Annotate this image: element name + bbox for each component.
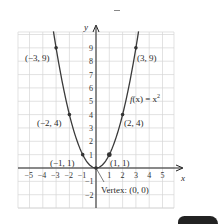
y-tick-label: 8 — [89, 57, 93, 66]
x-tick-label: 1 — [107, 171, 111, 180]
x-tick-label: 3 — [134, 171, 138, 180]
y-tick-label: −1 — [85, 177, 94, 186]
x-tick-label: −5 — [25, 171, 34, 180]
y-axis-label: y — [83, 22, 88, 32]
x-tick-label: 4 — [147, 171, 151, 180]
parabola-chart: x y −5−4−3−2−112345 987654321−1−2 (−3, 9… — [0, 0, 220, 224]
function-label: f(x) = x2 — [130, 93, 160, 104]
x-tick-label: 5 — [161, 171, 165, 180]
label-point-1-1: (1, 1) — [110, 158, 130, 168]
data-point — [134, 46, 138, 50]
corner-shape — [178, 216, 218, 224]
label-point-3-9: (3, 9) — [137, 53, 157, 63]
data-point — [121, 113, 125, 117]
data-point — [68, 113, 72, 117]
x-tick-labels: −5−4−3−2−112345 — [25, 171, 165, 180]
x-tick-label: −2 — [64, 171, 73, 180]
y-tick-label: −2 — [85, 191, 94, 200]
x-tick-label: −4 — [38, 171, 47, 180]
y-tick-label: 4 — [89, 111, 93, 120]
data-point — [54, 46, 58, 50]
y-tick-label: 1 — [89, 151, 93, 160]
vertex-label: Vertex: (0, 0) — [101, 185, 149, 195]
y-tick-label: 7 — [89, 71, 93, 80]
label-point-neg3-9: (−3, 9) — [25, 53, 50, 63]
label-point-neg1-1: (−1, 1) — [50, 158, 75, 168]
data-point — [81, 153, 85, 157]
x-tick-label: −3 — [51, 171, 60, 180]
y-tick-labels: 987654321−1−2 — [85, 44, 94, 200]
y-tick-label: 3 — [89, 124, 93, 133]
label-point-neg2-4: (−2, 4) — [37, 118, 62, 128]
vertex-pointer — [96, 168, 104, 182]
y-tick-label: 6 — [89, 84, 93, 93]
data-point — [94, 166, 98, 170]
x-tick-label: 2 — [121, 171, 125, 180]
y-tick-label: 9 — [89, 44, 93, 53]
y-tick-label: 5 — [89, 97, 93, 106]
data-point — [107, 152, 112, 157]
label-point-2-4: (2, 4) — [124, 118, 144, 128]
y-tick-label: 2 — [89, 137, 93, 146]
x-axis-label: x — [180, 173, 185, 183]
